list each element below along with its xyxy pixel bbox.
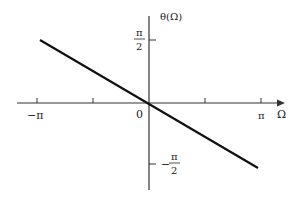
phase-plot: θ(Ω) Ω 0 −π π π 2 − π 2 bbox=[0, 0, 297, 199]
y-ticks bbox=[149, 40, 156, 164]
svg-text:π: π bbox=[171, 151, 178, 162]
y-tick-label-pos-half-pi: π 2 bbox=[134, 27, 145, 52]
svg-text:−: − bbox=[161, 158, 170, 171]
x-tick-label-neg-pi: −π bbox=[27, 109, 43, 122]
x-axis-label: Ω bbox=[277, 108, 286, 121]
y-axis-label: θ(Ω) bbox=[160, 11, 182, 22]
svg-text:π: π bbox=[136, 27, 143, 38]
svg-text:2: 2 bbox=[171, 165, 177, 176]
svg-text:2: 2 bbox=[136, 41, 142, 52]
x-axis-arrow-icon bbox=[277, 100, 285, 107]
x-tick-label-pos-pi: π bbox=[258, 110, 265, 121]
origin-label: 0 bbox=[136, 108, 143, 121]
y-tick-label-neg-half-pi: − π 2 bbox=[161, 151, 180, 176]
